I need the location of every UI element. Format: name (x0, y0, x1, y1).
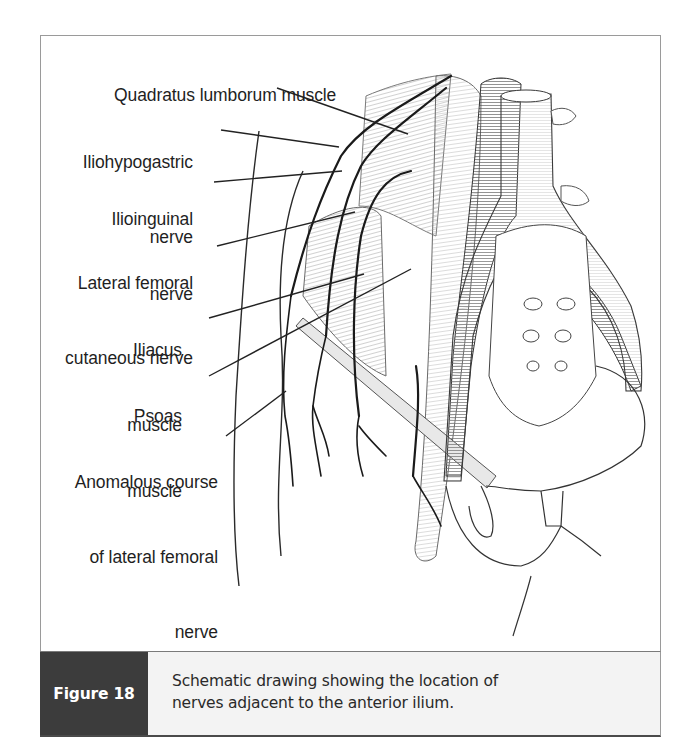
caption-text: Schematic drawing showing the location o… (148, 652, 660, 735)
figure-frame: Quadratus lumborum muscle Iliohypogastri… (40, 35, 661, 737)
caption-line-2: nerves adjacent to the anterior ilium. (172, 692, 660, 714)
label-line: of lateral femoral (75, 545, 218, 570)
caption-line-1: Schematic drawing showing the location o… (172, 670, 660, 692)
label-line: Anomalous course (75, 470, 218, 495)
figure-number: Figure 18 (40, 652, 148, 735)
label-line: nerve (75, 620, 218, 645)
sacrum (489, 225, 596, 426)
iliacus-muscle (303, 207, 386, 376)
hip-outline (234, 131, 303, 586)
figure-caption: Figure 18 Schematic drawing showing the … (40, 651, 661, 737)
